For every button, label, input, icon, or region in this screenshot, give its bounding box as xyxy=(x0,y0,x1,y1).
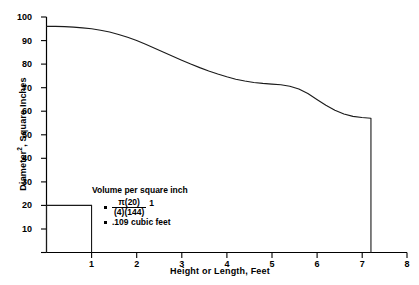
y-axis-title: Diameter2, Square Inches xyxy=(16,54,28,214)
y-tick-label-100: 100 xyxy=(8,12,32,22)
y-axis-ticks xyxy=(41,17,47,253)
reference-rectangle xyxy=(47,205,92,252)
formula-tail: 1 xyxy=(149,199,154,209)
x-tick-label-6: 6 xyxy=(309,259,325,269)
formula-fraction: π(20) (4)(144) xyxy=(112,198,146,217)
y-tick-label-10: 10 xyxy=(8,224,32,234)
y-axis-title-exponent: 2 xyxy=(16,147,23,151)
annotation-result: .109 cubic feet xyxy=(112,218,171,228)
x-tick-label-7: 7 xyxy=(354,259,370,269)
y-axis-title-rest: , Square Inches xyxy=(18,77,28,147)
y-tick-label-90: 90 xyxy=(8,36,32,46)
bullet-icon xyxy=(104,221,107,224)
chart-plot-area xyxy=(0,0,419,285)
formula-numerator: π(20) xyxy=(116,198,142,207)
annotation-formula-row: π(20) (4)(144) 1 xyxy=(92,198,188,217)
x-axis-ticks xyxy=(92,253,407,259)
annotation-heading: Volume per square inch xyxy=(92,186,188,196)
y-axis-title-base: Diameter xyxy=(18,151,28,191)
x-tick-label-8: 8 xyxy=(399,259,415,269)
x-tick-label-1: 1 xyxy=(84,259,100,269)
x-axis-title: Height or Length, Feet xyxy=(130,266,310,276)
volume-annotation: Volume per square inch π(20) (4)(144) 1 … xyxy=(92,186,188,227)
chart-figure: 100 90 80 70 60 50 40 30 20 10 1 2 3 4 5… xyxy=(0,0,419,285)
bullet-icon xyxy=(104,206,107,209)
formula-denominator: (4)(144) xyxy=(112,207,146,217)
annotation-result-row: .109 cubic feet xyxy=(92,218,188,228)
